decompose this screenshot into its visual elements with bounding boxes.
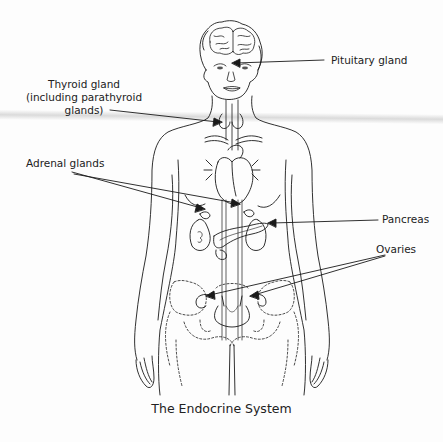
adrenal-gland-right bbox=[244, 210, 254, 217]
diagram-title: The Endocrine System bbox=[0, 401, 443, 416]
head-outline bbox=[200, 21, 262, 100]
brain-icon bbox=[210, 27, 255, 54]
pelvis-outline bbox=[166, 281, 299, 387]
label-thyroid-line3: glands) bbox=[20, 104, 148, 117]
face-features bbox=[214, 64, 251, 91]
heart-icon bbox=[204, 145, 260, 340]
label-adrenal-glands: Adrenal glands bbox=[26, 157, 104, 170]
label-thyroid-gland: Thyroid gland (including parathyroid gla… bbox=[20, 78, 148, 117]
label-ovaries: Ovaries bbox=[376, 243, 416, 256]
label-pancreas: Pancreas bbox=[382, 213, 429, 226]
adrenal-gland-left bbox=[200, 212, 210, 219]
label-thyroid-line1: Thyroid gland bbox=[20, 78, 148, 91]
label-thyroid-line2: (including parathyroid bbox=[20, 91, 148, 104]
label-pituitary-gland: Pituitary gland bbox=[331, 54, 407, 67]
